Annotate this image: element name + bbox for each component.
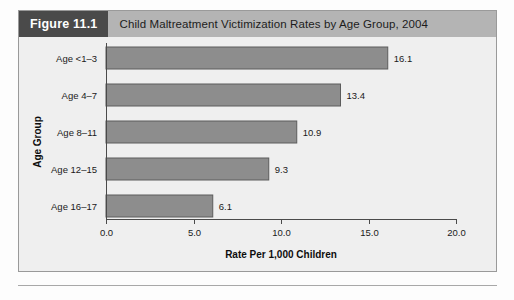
x-tick-label: 20.0 xyxy=(447,227,466,238)
category-label: Age 8–11 xyxy=(57,127,97,138)
figure-container: Figure 11.1 Child Maltreatment Victimiza… xyxy=(18,10,497,272)
category-label: Age 4–7 xyxy=(62,90,97,101)
bar-1 xyxy=(106,47,388,69)
chart-plot-area: Age <1–316.1Age 4–713.4Age 8–1110.9Age 1… xyxy=(19,37,496,271)
value-label: 13.4 xyxy=(347,90,366,101)
x-tick-label: 15.0 xyxy=(360,227,379,238)
figure-title: Child Maltreatment Victimization Rates b… xyxy=(108,11,428,37)
bar-3 xyxy=(106,121,297,143)
figure-header: Figure 11.1 Child Maltreatment Victimiza… xyxy=(19,11,496,37)
bar-5 xyxy=(106,195,213,217)
category-label: Age 16–17 xyxy=(51,201,97,212)
value-label: 9.3 xyxy=(275,164,288,175)
category-label: Age <1–3 xyxy=(56,53,97,64)
y-axis-title: Age Group xyxy=(32,116,43,168)
x-axis-title: Rate Per 1,000 Children xyxy=(225,249,337,260)
x-tick-label: 0.0 xyxy=(100,227,113,238)
page-divider-rule xyxy=(18,285,497,286)
bar-chart: Age <1–316.1Age 4–713.4Age 8–1110.9Age 1… xyxy=(19,37,496,271)
value-label: 16.1 xyxy=(394,53,413,64)
value-label: 10.9 xyxy=(303,127,322,138)
x-tick-label: 10.0 xyxy=(272,227,291,238)
category-label: Age 12–15 xyxy=(51,164,97,175)
bar-2 xyxy=(106,84,341,106)
figure-number-tag: Figure 11.1 xyxy=(19,11,108,37)
bars-group xyxy=(106,47,388,217)
x-tick-label: 5.0 xyxy=(188,227,201,238)
bar-4 xyxy=(106,158,269,180)
value-label: 6.1 xyxy=(219,201,232,212)
